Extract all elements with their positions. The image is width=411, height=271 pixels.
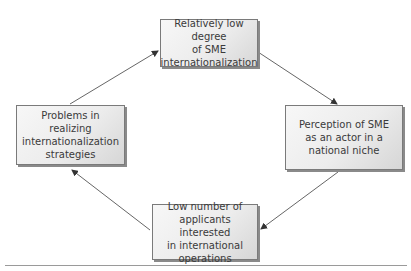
arrow-left-to-top [70, 51, 158, 104]
node-low-internationalization: Relatively low degree of SME internation… [160, 19, 258, 67]
arrow-bottom-to-left [72, 170, 150, 230]
arrow-top-to-right [258, 52, 337, 104]
node-label: Problems in realizing internationalizati… [21, 109, 120, 161]
arrow-right-to-bottom [261, 172, 338, 229]
node-strategy-problems: Problems in realizing internationalizati… [16, 105, 125, 165]
bottom-divider [5, 265, 407, 266]
node-label: Perception of SME as an actor in a natio… [299, 118, 389, 157]
node-label: Relatively low degree of SME internation… [161, 17, 258, 69]
node-label: Low number of applicants interested in i… [157, 200, 253, 265]
node-national-niche-perception: Perception of SME as an actor in a natio… [285, 105, 403, 170]
node-low-applicants: Low number of applicants interested in i… [152, 204, 258, 260]
